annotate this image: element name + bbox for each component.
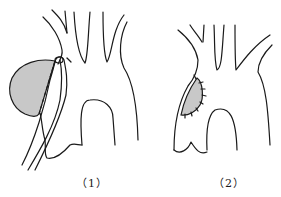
aortic-arch-diagram [0, 0, 281, 197]
panel-1-aorta [40, 10, 138, 158]
panel-2-repair-patch [181, 75, 206, 118]
panel-2-aorta [174, 25, 272, 153]
panel-1-label: （1） [76, 174, 108, 190]
panel-2-label: （2） [213, 174, 245, 190]
